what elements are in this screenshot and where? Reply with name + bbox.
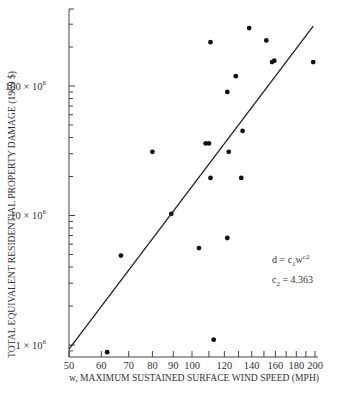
x-tick-label: 100 [184,360,200,371]
data-point [208,40,213,45]
data-point [272,58,277,63]
scatter-plot [0,0,338,394]
data-point [247,26,252,31]
y-axis-title: TOTAL EQUIVALENT RESIDENTIAL PROPERTY DA… [6,71,17,358]
data-point [225,236,230,241]
data-point [211,337,216,342]
data-point [207,141,212,146]
data-point [226,149,231,154]
data-point [264,38,269,43]
data-point [169,211,174,216]
data-point [233,74,238,79]
axes [69,9,318,357]
x-tick-label: 80 [147,360,158,371]
x-tick-label: 180 [288,360,304,371]
fit-equation-annotation: d = c1wc2 c2 = 4.363 [272,250,313,292]
x-tick-label: 140 [244,360,260,371]
data-point [105,350,110,355]
data-point [225,90,230,95]
x-tick-label: 160 [268,360,284,371]
data-point [150,149,155,154]
data-point [119,253,124,258]
data-points [105,26,316,355]
y-ticks [69,9,75,351]
x-tick-label: 60 [96,360,107,371]
exponent-value: c2 = 4.363 [272,272,313,292]
x-tick-label: 90 [168,360,179,371]
x-tick-label: 200 [307,360,323,371]
ytick-label-1m: 1 × 106 [16,338,46,351]
data-point [311,60,316,65]
x-tick-label: 70 [123,360,134,371]
x-axis-title: w, MAXIMUM SUSTAINED SURFACE WIND SPEED … [0,372,338,383]
data-point [197,246,202,251]
x-tick-label: 120 [216,360,232,371]
data-point [208,176,213,181]
fit-line [69,26,313,349]
data-point [239,176,244,181]
x-tick-label: 50 [64,360,75,371]
data-point [240,129,245,134]
equation-line: d = c1wc2 [272,250,313,272]
